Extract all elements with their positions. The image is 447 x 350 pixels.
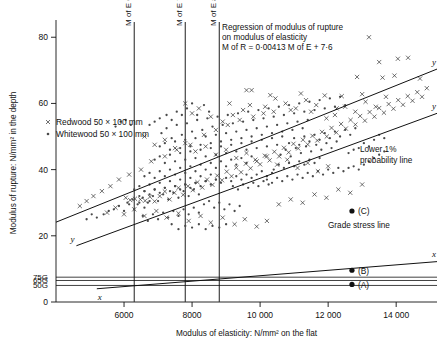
- scatter-point-redwood: [153, 143, 157, 147]
- scatter-point-redwood: [265, 219, 269, 223]
- scatter-point-redwood: [295, 166, 299, 170]
- scatter-point-whitewood: [339, 135, 341, 137]
- scatter-point-whitewood: [179, 147, 181, 149]
- scatter-point-whitewood: [179, 152, 181, 154]
- scatter-point-redwood: [406, 56, 410, 60]
- scatter-point-whitewood: [330, 147, 332, 149]
- scatter-point-whitewood: [288, 104, 290, 106]
- scatter-point-whitewood: [154, 159, 156, 161]
- scatter-point-whitewood: [313, 134, 315, 136]
- scatter-point-whitewood: [235, 150, 237, 152]
- scatter-point-whitewood: [235, 130, 237, 132]
- scatter-point-redwood: [304, 98, 308, 102]
- scatter-point-whitewood: [315, 144, 317, 146]
- scatter-point-whitewood: [334, 106, 336, 108]
- scatter-point-whitewood: [329, 97, 331, 99]
- scatter-point-whitewood: [177, 228, 179, 230]
- scatter-point-whitewood: [169, 149, 171, 151]
- scatter-point-redwood: [122, 212, 126, 216]
- scatter-point-whitewood: [208, 111, 210, 113]
- scatter-point-whitewood: [211, 225, 213, 227]
- scatter-point-redwood: [190, 111, 194, 115]
- scatter-point-whitewood: [138, 185, 140, 187]
- scatter-point-redwood: [360, 92, 364, 96]
- scatter-point-whitewood: [128, 203, 130, 205]
- x-tick-label: 6000: [115, 310, 134, 320]
- scatter-point-whitewood: [148, 193, 150, 195]
- scatter-point-redwood: [181, 193, 185, 197]
- scatter-point-redwood: [198, 214, 202, 218]
- scatter-point-whitewood: [239, 205, 241, 207]
- scatter-point-whitewood: [257, 185, 259, 187]
- scatter-point-whitewood: [290, 155, 292, 157]
- scatter-point-whitewood: [171, 137, 173, 139]
- scatter-point-whitewood: [240, 157, 242, 159]
- scatter-point-whitewood: [291, 129, 293, 131]
- scatter-point-redwood: [289, 197, 293, 201]
- x-tick-label: 8000: [183, 310, 202, 320]
- scatter-point-redwood: [333, 113, 337, 117]
- scatter-point-whitewood: [353, 149, 355, 151]
- marked-point-label: (A): [358, 280, 369, 290]
- scatter-point-whitewood: [167, 198, 169, 200]
- scatter-point-redwood: [163, 189, 167, 193]
- scatter-point-redwood: [425, 86, 429, 90]
- scatter-point-whitewood: [189, 150, 191, 152]
- grade-stress-line-label: Grade stress line: [328, 221, 390, 230]
- scatter-point-redwood: [251, 115, 255, 119]
- scatter-point-whitewood: [184, 183, 186, 185]
- scatter-point-redwood: [231, 113, 235, 117]
- scatter-point-redwood: [301, 201, 305, 205]
- scatter-point-redwood: [391, 107, 395, 111]
- scatter-point-whitewood: [308, 140, 310, 142]
- scatter-point-redwood: [173, 146, 177, 150]
- scatter-point-whitewood: [198, 193, 200, 195]
- scatter-point-whitewood: [159, 145, 161, 147]
- scatter-point-whitewood: [373, 139, 375, 141]
- scatter-point-whitewood: [205, 168, 207, 170]
- scatter-point-whitewood: [245, 173, 247, 175]
- scatter-point-whitewood: [181, 114, 183, 116]
- scatter-point-whitewood: [143, 207, 145, 209]
- scatter-point-whitewood: [281, 180, 283, 182]
- scatter-point-whitewood: [179, 178, 181, 180]
- scatter-point-redwood: [248, 166, 252, 170]
- scatter-point-redwood: [153, 199, 157, 203]
- scatter-point-whitewood: [196, 114, 198, 116]
- scatter-point-whitewood: [271, 137, 273, 139]
- scatter-point-whitewood: [96, 216, 98, 218]
- scatter-point-redwood: [314, 103, 318, 107]
- scatter-point-whitewood: [225, 177, 227, 179]
- scatter-point-redwood: [204, 144, 208, 148]
- scatter-point-whitewood: [324, 132, 326, 134]
- scatter-point-whitewood: [91, 213, 93, 215]
- lower-probability-line-start-label: y: [69, 234, 74, 244]
- scatter-point-whitewood: [320, 149, 322, 151]
- scatter-point-whitewood: [191, 226, 193, 228]
- scatter-point-whitewood: [174, 160, 176, 162]
- scatter-point-redwood: [268, 158, 272, 162]
- scatter-point-whitewood: [164, 142, 166, 144]
- scatter-point-whitewood: [266, 145, 268, 147]
- scatter-point-whitewood: [250, 135, 252, 137]
- scatter-point-whitewood: [230, 180, 232, 182]
- scatter-point-whitewood: [252, 182, 254, 184]
- scatter-point-redwood: [225, 170, 229, 174]
- scatter-point-redwood: [380, 76, 384, 80]
- scatter-point-redwood: [244, 151, 248, 155]
- scatter-point-whitewood: [142, 215, 144, 217]
- scatter-point-whitewood: [193, 207, 195, 209]
- scatter-point-whitewood: [143, 190, 145, 192]
- scatter-point-whitewood: [213, 207, 215, 209]
- scatter-point-whitewood: [250, 155, 252, 157]
- scatter-point-whitewood: [225, 165, 227, 167]
- scatter-point-redwood: [368, 110, 372, 114]
- scatter-point-whitewood: [256, 147, 258, 149]
- scatter-point-redwood: [176, 211, 180, 215]
- scatter-point-redwood: [406, 94, 410, 98]
- scatter-point-whitewood: [288, 142, 290, 144]
- scatter-point-whitewood: [307, 172, 309, 174]
- scatter-point-whitewood: [303, 111, 305, 113]
- scatter-point-redwood: [214, 128, 218, 132]
- scatter-point-redwood: [263, 105, 267, 109]
